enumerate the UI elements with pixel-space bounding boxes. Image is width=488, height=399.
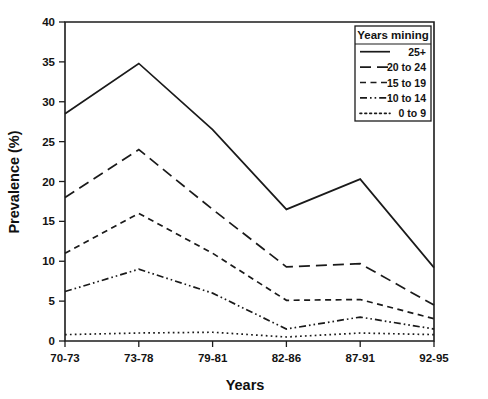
y-tick-label: 35 — [42, 56, 55, 68]
y-tick-label: 10 — [42, 255, 55, 267]
y-axis-title: Prevalence (%) — [6, 130, 22, 233]
y-tick-label: 25 — [42, 136, 55, 148]
x-tick-label: 92-95 — [419, 352, 449, 364]
legend-title: Years mining — [357, 29, 429, 41]
chart-canvas: 0510152025303540 70-7373-7879-8182-8687-… — [0, 0, 488, 399]
line-chart-figure: 0510152025303540 70-7373-7879-8182-8687-… — [0, 0, 488, 399]
y-tick-label: 40 — [42, 16, 55, 28]
x-tick-label: 87-91 — [345, 352, 375, 364]
y-tick-label: 5 — [49, 295, 56, 307]
y-tick-label: 15 — [42, 215, 55, 227]
y-tick-label: 0 — [49, 335, 55, 347]
y-tick-label: 30 — [42, 96, 55, 108]
legend-label-10-to-14: 10 to 14 — [387, 92, 426, 104]
chart-legend: Years mining25+20 to 2415 to 1910 to 140… — [355, 26, 431, 121]
y-tick-label: 20 — [42, 176, 55, 188]
x-tick-label: 70-73 — [50, 352, 79, 364]
x-axis-title: Years — [226, 377, 265, 393]
x-tick-label: 79-81 — [198, 352, 228, 364]
legend-label-0-to-9: 0 to 9 — [399, 107, 427, 119]
legend-label-25-: 25+ — [408, 46, 426, 58]
legend-label-15-to-19: 15 to 19 — [387, 77, 426, 89]
x-tick-label: 82-86 — [272, 352, 301, 364]
legend-label-20-to-24: 20 to 24 — [387, 61, 426, 73]
x-tick-label: 73-78 — [124, 352, 154, 364]
